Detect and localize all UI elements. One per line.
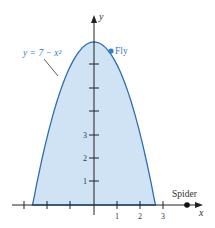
- x-axis-label: x: [198, 207, 204, 218]
- parabola-chart: 1 2 3 1 2 3 x y y = 7 − x² Fly Spider: [0, 0, 215, 228]
- y-axis-label: y: [98, 11, 104, 22]
- spider-label: Spider: [172, 189, 198, 199]
- fly-label: Fly: [115, 46, 128, 56]
- equation-label: y = 7 − x²: [22, 48, 62, 58]
- x-tick-label-3: 3: [161, 212, 165, 221]
- x-tick-label-1: 1: [115, 212, 119, 221]
- y-tick-label-3: 3: [83, 131, 87, 140]
- x-tick-label-2: 2: [138, 212, 142, 221]
- spider-point: [184, 202, 190, 208]
- y-tick-label-2: 2: [83, 154, 87, 163]
- equation-leader-line: [44, 59, 58, 76]
- fly-point: [108, 48, 113, 53]
- y-tick-label-1: 1: [83, 177, 87, 186]
- y-axis-arrow-icon: [91, 15, 97, 23]
